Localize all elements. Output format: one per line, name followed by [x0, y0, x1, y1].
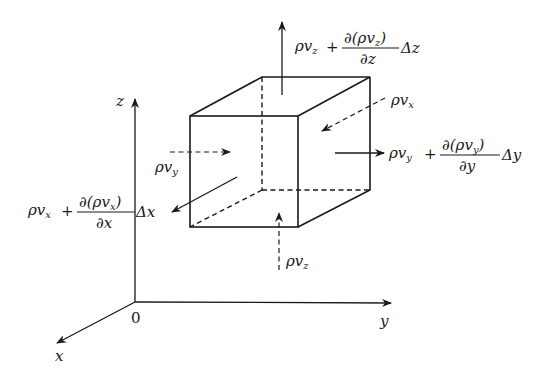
x-outflow-label: ρvx + ∂(ρvx) ∂x Δx	[27, 193, 156, 232]
x-inflow-arrow	[322, 98, 385, 131]
y-inflow-label: ρvy	[154, 158, 178, 177]
y-axis	[135, 302, 391, 303]
z-outflow-label: ρvz + ∂(ρvz) ∂z Δz	[294, 29, 420, 68]
flux-arrows	[170, 22, 385, 270]
svg-text:+: +	[61, 202, 74, 220]
svg-text:ρvz: ρvz	[294, 37, 318, 56]
z-inflow-label: ρvz	[285, 252, 309, 271]
origin-label: 0	[131, 309, 141, 327]
numerator: ∂(ρv	[344, 29, 375, 47]
diagram-canvas: z y x 0 ρvz + ∂(ρvz	[0, 0, 550, 381]
svg-text:ρvy: ρvy	[388, 144, 412, 163]
x-outflow-arrow	[172, 177, 237, 212]
front-face	[190, 116, 298, 227]
svg-text:∂x: ∂x	[96, 214, 113, 232]
svg-text:Δy: Δy	[501, 146, 522, 164]
plus: +	[326, 38, 339, 56]
delta: Δz	[400, 39, 420, 57]
svg-text:∂(ρvz): ∂(ρvz)	[344, 29, 386, 48]
y-outflow-label: ρvy + ∂(ρvy) ∂y Δy	[388, 136, 522, 175]
hidden-edge-depth	[190, 190, 262, 227]
control-volume-diagram: z y x 0 ρvz + ∂(ρvz	[0, 0, 550, 381]
numerator-close: )	[379, 29, 386, 47]
x-axis	[57, 302, 135, 343]
rho: ρ	[294, 37, 304, 55]
denominator: ∂z	[360, 50, 376, 68]
svg-text:∂(ρvy): ∂(ρvy)	[442, 136, 485, 155]
svg-text:∂(ρvx): ∂(ρvx)	[79, 193, 122, 212]
svg-text:ρvx: ρvx	[27, 201, 51, 220]
svg-text:∂y: ∂y	[459, 157, 476, 175]
x-axis-label: x	[55, 347, 64, 365]
z-axis-label: z	[115, 92, 124, 110]
right-face-edges	[298, 77, 370, 227]
sub: z	[311, 45, 318, 56]
y-axis-label: y	[379, 312, 389, 330]
svg-text:+: +	[424, 145, 437, 163]
svg-text:Δx: Δx	[135, 203, 156, 221]
x-inflow-label: ρvx	[390, 91, 414, 110]
top-face-edges	[190, 77, 370, 116]
